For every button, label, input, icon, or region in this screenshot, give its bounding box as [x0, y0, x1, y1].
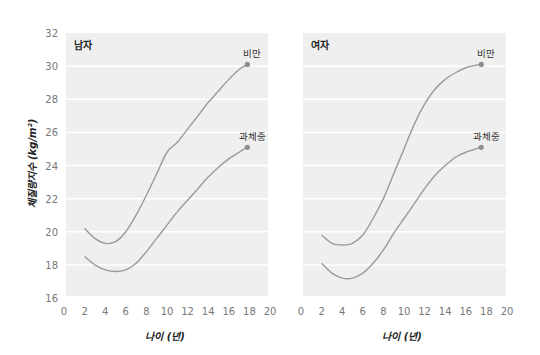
y-tick-label: 16 — [45, 293, 58, 304]
y-tick-label: 20 — [45, 227, 58, 238]
y-tick-label: 24 — [45, 161, 58, 172]
x-tick-label: 6 — [123, 306, 129, 317]
y-tick-label: 32 — [45, 28, 58, 39]
x-axis-label: 나이 (년) — [145, 331, 185, 342]
x-tick-label: 16 — [459, 306, 472, 317]
panel-female: 02468101214161820여자비만과체중나이 (년) — [298, 33, 514, 342]
x-tick-label: 10 — [161, 306, 174, 317]
x-tick-label: 4 — [102, 306, 108, 317]
x-tick-label: 16 — [222, 306, 235, 317]
x-axis-label: 나이 (년) — [382, 331, 422, 342]
bmi-chart: 02468101214161820161820222426283032남자비만과… — [0, 0, 540, 355]
x-tick-label: 4 — [339, 306, 345, 317]
x-tick-label: 0 — [61, 306, 67, 317]
x-tick-label: 20 — [264, 306, 277, 317]
x-tick-label: 10 — [398, 306, 411, 317]
panel-title: 여자 — [311, 39, 330, 51]
x-tick-label: 14 — [202, 306, 215, 317]
x-tick-label: 2 — [318, 306, 324, 317]
plot-area — [303, 33, 506, 296]
series-endpoint-marker — [479, 145, 484, 150]
y-axis-label: 체질량지수 (kg/m²) — [27, 119, 38, 209]
series-label: 비만 — [243, 48, 261, 59]
panel-title: 남자 — [74, 39, 93, 51]
x-tick-label: 20 — [501, 306, 514, 317]
x-tick-label: 18 — [480, 306, 493, 317]
panel-male: 02468101214161820161820222426283032남자비만과… — [27, 28, 276, 342]
y-tick-label: 18 — [45, 260, 58, 271]
series-label: 비만 — [477, 48, 495, 59]
y-tick-label: 26 — [45, 127, 58, 138]
series-endpoint-marker — [245, 62, 250, 67]
x-tick-label: 12 — [418, 306, 431, 317]
y-tick-label: 28 — [45, 94, 58, 105]
y-tick-label: 22 — [45, 194, 58, 205]
x-tick-label: 0 — [298, 306, 304, 317]
series-label: 과체중 — [473, 131, 500, 142]
plot-area — [66, 33, 268, 296]
series-label: 과체중 — [239, 131, 266, 142]
y-tick-label: 30 — [45, 61, 58, 72]
x-tick-label: 18 — [243, 306, 256, 317]
x-tick-label: 8 — [380, 306, 386, 317]
x-tick-label: 12 — [181, 306, 194, 317]
series-endpoint-marker — [479, 62, 484, 67]
x-tick-label: 6 — [360, 306, 366, 317]
x-tick-label: 8 — [143, 306, 149, 317]
series-endpoint-marker — [245, 145, 250, 150]
x-tick-label: 2 — [81, 306, 87, 317]
x-tick-label: 14 — [439, 306, 452, 317]
